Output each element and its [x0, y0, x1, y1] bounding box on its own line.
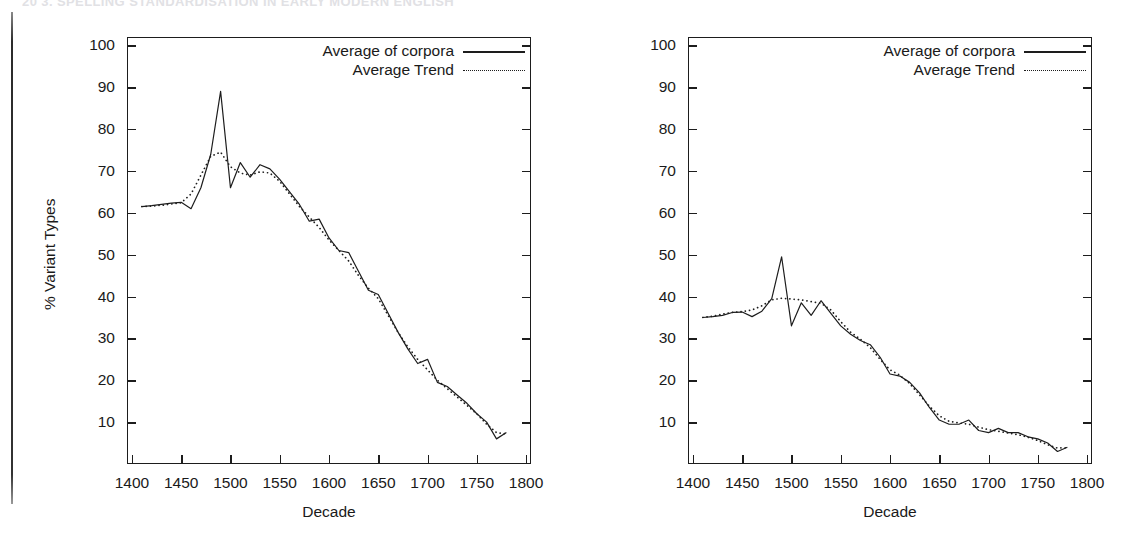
x-axis-tick	[939, 455, 940, 464]
x-axis-tick	[841, 455, 842, 464]
x-axis-tick-label: 1650	[361, 474, 395, 492]
chart-curves	[688, 37, 1092, 464]
legend-item-average-of-corpora: Average of corpora	[322, 42, 525, 61]
y-axis-tick-label: 100	[89, 36, 115, 54]
y-axis-tick	[127, 171, 136, 172]
x-axis-tick-label: 1500	[774, 474, 808, 492]
x-axis-tick	[329, 455, 330, 464]
legend-variant-types: Average of corpora Average Trend	[322, 42, 525, 80]
y-axis-tick	[1083, 380, 1092, 381]
y-axis-tick-label: 80	[98, 120, 115, 138]
x-axis-tick	[791, 455, 792, 464]
x-axis-tick-label: 1400	[676, 474, 710, 492]
y-axis-tick-label: 50	[659, 246, 676, 264]
y-axis-tick	[522, 171, 531, 172]
legend-key-dotted-line	[463, 65, 525, 75]
y-axis-tick-label: 40	[98, 288, 115, 306]
legend-key-dotted-line	[1024, 65, 1086, 75]
y-axis-tick-label: 90	[98, 78, 115, 96]
x-axis-tick	[742, 455, 743, 464]
x-axis-tick	[890, 455, 891, 464]
plot-area-variant-types: Average of corpora Average Trend 1020304…	[127, 37, 531, 464]
chart-curves	[127, 37, 531, 464]
y-axis-tick	[688, 255, 697, 256]
x-axis-tick	[1038, 455, 1039, 464]
y-axis-tick	[522, 338, 531, 339]
y-axis-tick	[522, 87, 531, 88]
y-axis-tick	[127, 297, 136, 298]
legend-label: Average Trend	[353, 61, 454, 80]
series-line-solid	[703, 257, 1068, 452]
x-axis-tick	[132, 455, 133, 464]
legend-key-solid-line	[1024, 46, 1086, 56]
y-axis-tick	[1083, 213, 1092, 214]
y-axis-tick	[127, 87, 136, 88]
x-axis-tick-label: 1700	[971, 474, 1005, 492]
legend-variant-tokens: Average of corpora Average Trend	[883, 42, 1086, 80]
x-axis-tick	[693, 455, 694, 464]
x-axis-tick-label: 1550	[823, 474, 857, 492]
legend-label: Average Trend	[914, 61, 1015, 80]
y-axis-tick	[522, 129, 531, 130]
y-axis-tick	[1083, 338, 1092, 339]
y-axis-tick-label: 60	[98, 204, 115, 222]
y-axis-tick	[688, 87, 697, 88]
x-axis-tick	[181, 455, 182, 464]
x-axis-tick-label: 1600	[873, 474, 907, 492]
series-line-dotted	[703, 298, 1068, 448]
y-axis-tick	[1083, 297, 1092, 298]
x-axis-tick	[428, 455, 429, 464]
x-axis-tick	[280, 455, 281, 464]
x-axis-tick-label: 1700	[410, 474, 444, 492]
legend-item-average-trend: Average Trend	[322, 61, 525, 80]
legend-label: Average of corpora	[322, 42, 454, 61]
y-axis-tick	[688, 45, 697, 46]
y-axis-tick	[688, 213, 697, 214]
x-axis-tick-label: 1800	[509, 474, 543, 492]
legend-label: Average of corpora	[883, 42, 1015, 61]
y-axis-tick	[1083, 255, 1092, 256]
x-axis-tick	[230, 455, 231, 464]
x-axis-tick	[989, 455, 990, 464]
x-axis-tick-label: 1800	[1070, 474, 1104, 492]
x-axis-tick	[526, 455, 527, 464]
x-axis-tick-label: 1750	[460, 474, 494, 492]
x-axis-tick-label: 1400	[115, 474, 149, 492]
y-axis-tick-label: 40	[659, 288, 676, 306]
x-axis-tick-label: 1500	[213, 474, 247, 492]
y-axis-tick-label: 70	[659, 162, 676, 180]
y-axis-tick	[688, 129, 697, 130]
y-axis-tick-label: 50	[98, 246, 115, 264]
legend-key-solid-line	[463, 46, 525, 56]
x-axis-title: Decade	[688, 503, 1092, 521]
y-axis-tick-label: 20	[98, 371, 115, 389]
y-axis-tick	[688, 380, 697, 381]
x-axis-tick-label: 1650	[922, 474, 956, 492]
y-axis-tick	[688, 338, 697, 339]
y-axis-tick	[1083, 45, 1092, 46]
x-axis-tick-label: 1450	[725, 474, 759, 492]
x-axis-tick-label: 1450	[164, 474, 198, 492]
y-axis-tick-label: 30	[98, 329, 115, 347]
y-axis-title: % Variant Types	[41, 199, 59, 310]
series-line-solid	[142, 91, 507, 438]
series-line-dotted	[142, 152, 507, 434]
y-axis-tick	[522, 213, 531, 214]
y-axis-tick	[127, 45, 136, 46]
y-axis-tick-label: 10	[98, 413, 115, 431]
y-axis-tick	[688, 171, 697, 172]
y-axis-tick	[127, 129, 136, 130]
x-axis-tick	[378, 455, 379, 464]
figure-variant-types: Average of corpora Average Trend 1020304…	[0, 0, 560, 553]
y-axis-tick	[1083, 129, 1092, 130]
y-axis-tick-label: 90	[659, 78, 676, 96]
plot-area-variant-tokens: Average of corpora Average Trend 1020304…	[688, 37, 1092, 464]
y-axis-tick	[127, 213, 136, 214]
y-axis-tick	[522, 380, 531, 381]
y-axis-tick	[522, 45, 531, 46]
scanned-page: 20 3. SPELLING STANDARDISATION IN EARLY …	[0, 0, 1121, 553]
y-axis-tick	[688, 422, 697, 423]
y-axis-tick-label: 30	[659, 329, 676, 347]
y-axis-tick	[522, 422, 531, 423]
y-axis-tick	[127, 380, 136, 381]
